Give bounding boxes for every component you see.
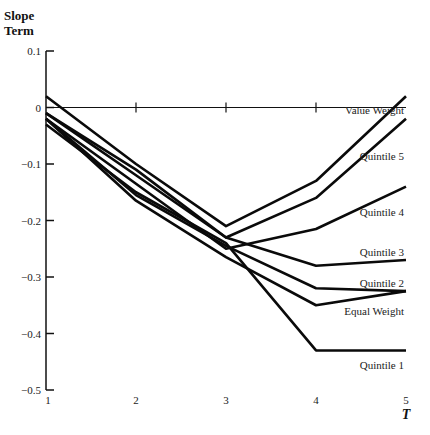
series-label-quintile-1: Quintile 1 bbox=[360, 359, 404, 371]
series-label-equal-weight: Equal Weight bbox=[344, 305, 404, 317]
series-label-quintile-5: Quintile 5 bbox=[360, 150, 405, 162]
y-tick-label: −0.3 bbox=[21, 271, 41, 283]
x-tick-label: 1 bbox=[45, 394, 51, 406]
y-tick-label: −0.5 bbox=[21, 384, 41, 396]
series-label-value-weight: Value Weight bbox=[345, 104, 404, 116]
x-tick-label: 2 bbox=[133, 394, 139, 406]
axes: 0.10−0.1−0.2−0.3−0.4−0.512345T bbox=[21, 45, 412, 422]
series-line-quintile-5 bbox=[46, 113, 406, 237]
series-label-quintile-3: Quintile 3 bbox=[360, 246, 405, 258]
y-tick-label: 0.1 bbox=[27, 45, 41, 57]
x-tick-label: 5 bbox=[403, 394, 409, 406]
series-label-quintile-2: Quintile 2 bbox=[360, 277, 404, 289]
y-tick-label: 0 bbox=[36, 102, 42, 114]
series-label-quintile-4: Quintile 4 bbox=[360, 206, 405, 218]
series-line-quintile-2 bbox=[46, 119, 406, 291]
y-tick-label: −0.2 bbox=[21, 215, 41, 227]
x-axis-title: T bbox=[402, 407, 412, 422]
y-tick-label: −0.4 bbox=[21, 328, 41, 340]
y-tick-label: −0.1 bbox=[21, 158, 41, 170]
x-tick-label: 3 bbox=[223, 394, 229, 406]
x-tick-label: 4 bbox=[313, 394, 319, 406]
slope-term-line-chart: 0.10−0.1−0.2−0.3−0.4−0.512345T Value Wei… bbox=[0, 0, 430, 435]
